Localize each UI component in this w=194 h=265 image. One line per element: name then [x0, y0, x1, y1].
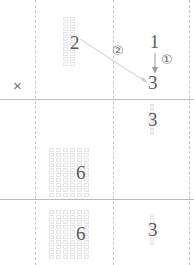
unit-block-cell: [150, 242, 154, 245]
unit-block-cell: [49, 153, 54, 157]
unit-block-cell: [63, 27, 68, 31]
unit-block-cell: [56, 148, 61, 152]
unit-block-column: [56, 210, 61, 259]
worksheet-canvas: 2 3 × 1 ① ② 3 6 6 3: [0, 0, 194, 265]
unit-block-cell: [84, 153, 89, 157]
unit-block-cell: [63, 183, 68, 187]
unit-block-cell: [56, 230, 61, 234]
unit-block-cell: [63, 240, 68, 244]
unit-block-cell: [150, 104, 154, 107]
unit-block-cell: [70, 62, 75, 66]
unit-block-column: [63, 148, 68, 197]
unit-block-cell: [63, 37, 68, 41]
column-guide-middle: [113, 0, 114, 265]
unit-block-cell: [56, 255, 61, 259]
unit-block-column: [70, 210, 75, 259]
unit-block-cell: [49, 245, 54, 249]
unit-block-cell: [56, 240, 61, 244]
unit-block-cell: [70, 188, 75, 192]
unit-block-cell: [70, 27, 75, 31]
unit-block-cell: [63, 225, 68, 229]
unit-block-cell: [70, 210, 75, 214]
unit-block-column: [63, 210, 68, 259]
unit-block-cell: [70, 163, 75, 167]
step-marker-1: ①: [161, 53, 173, 66]
multiply-operator: ×: [13, 78, 22, 93]
digit-row1-tens: 2: [70, 33, 80, 52]
unit-block-column: [56, 148, 61, 197]
unit-block-cell: [49, 210, 54, 214]
unit-block-cell: [49, 250, 54, 254]
unit-block-cell: [70, 158, 75, 162]
unit-block-cell: [70, 148, 75, 152]
unit-block-cell: [56, 193, 61, 197]
unit-block-cell: [63, 215, 68, 219]
unit-block-cell: [63, 168, 68, 172]
unit-block-column: [63, 17, 68, 66]
unit-block-cell: [49, 255, 54, 259]
unit-block-cell: [56, 235, 61, 239]
unit-block-cell: [70, 17, 75, 21]
unit-block-cell: [63, 22, 68, 26]
unit-block-cell: [84, 210, 89, 214]
unit-block-cell: [49, 173, 54, 177]
unit-block-cell: [49, 148, 54, 152]
unit-block-cell: [84, 183, 89, 187]
unit-block-cell: [63, 158, 68, 162]
unit-block-cell: [63, 17, 68, 21]
unit-block-cell: [56, 158, 61, 162]
unit-block-cell: [77, 210, 82, 214]
unit-block-cell: [84, 188, 89, 192]
unit-block-cell: [70, 225, 75, 229]
unit-block-cell: [63, 178, 68, 182]
unit-block-cell: [77, 183, 82, 187]
unit-block-cell: [63, 47, 68, 51]
unit-block-cell: [150, 132, 154, 135]
unit-block-cell: [77, 245, 82, 249]
step1-arrow: [152, 53, 158, 74]
unit-block-cell: [56, 183, 61, 187]
unit-block-cell: [56, 245, 61, 249]
unit-block-cell: [56, 173, 61, 177]
unit-block-cell: [56, 210, 61, 214]
unit-block-cell: [63, 32, 68, 36]
unit-block-cell: [63, 62, 68, 66]
unit-block-cell: [77, 250, 82, 254]
unit-block-cell: [70, 22, 75, 26]
unit-block-column: [70, 148, 75, 197]
unit-block-cell: [70, 57, 75, 61]
unit-block-cell: [70, 215, 75, 219]
unit-block-cell: [70, 183, 75, 187]
unit-block-cell: [49, 168, 54, 172]
unit-block-cell: [49, 235, 54, 239]
digit-row2-ones: 3: [148, 110, 158, 129]
unit-block-cell: [49, 193, 54, 197]
unit-block-cell: [49, 220, 54, 224]
unit-block-cell: [63, 42, 68, 46]
unit-block-cell: [70, 250, 75, 254]
unit-block-cell: [84, 255, 89, 259]
unit-block-cell: [70, 220, 75, 224]
unit-block-cell: [84, 245, 89, 249]
unit-block-cell: [70, 255, 75, 259]
unit-block-cell: [77, 188, 82, 192]
unit-block-cell: [70, 168, 75, 172]
unit-block-cell: [77, 255, 82, 259]
unit-block-cell: [63, 210, 68, 214]
unit-block-cell: [63, 250, 68, 254]
unit-block-cell: [63, 148, 68, 152]
unit-block-cell: [84, 193, 89, 197]
unit-block-cell: [70, 153, 75, 157]
unit-block-column: [49, 148, 54, 197]
unit-block-cell: [49, 215, 54, 219]
annotation-overlay: [0, 0, 194, 265]
unit-block-cell: [49, 158, 54, 162]
unit-block-cell: [63, 188, 68, 192]
rule-above-partials: [0, 99, 194, 100]
unit-block-cell: [49, 230, 54, 234]
column-guide-left: [35, 0, 36, 265]
digit-row4-ones: 3: [148, 220, 158, 239]
unit-block-cell: [84, 148, 89, 152]
unit-block-cell: [77, 215, 82, 219]
unit-block-cell: [77, 148, 82, 152]
